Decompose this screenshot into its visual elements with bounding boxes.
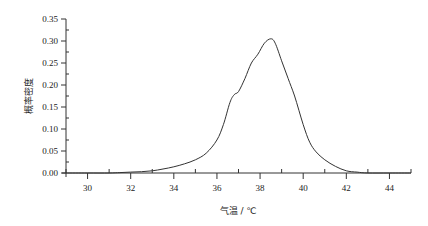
y-tick-label: 0.35	[42, 14, 58, 24]
x-tick-label: 34	[169, 183, 179, 193]
density-curve	[66, 39, 411, 173]
y-tick-label: 0.10	[42, 124, 58, 134]
x-tick-label: 40	[299, 183, 309, 193]
x-tick-label: 42	[342, 183, 351, 193]
x-tick-label: 44	[385, 183, 395, 193]
y-tick-label: 0.25	[42, 58, 58, 68]
y-axis: 0.000.050.100.150.200.250.300.35	[42, 14, 69, 178]
pdf-line-chart: 0.000.050.100.150.200.250.300.35 3032343…	[0, 0, 428, 226]
y-tick-label: 0.00	[42, 168, 58, 178]
y-tick-label: 0.30	[42, 36, 58, 46]
x-tick-label: 36	[212, 183, 222, 193]
y-tick-label: 0.15	[42, 102, 58, 112]
y-tick-label: 0.05	[42, 146, 58, 156]
x-axis-title: 气温 / ℃	[220, 205, 257, 216]
y-tick-label: 0.20	[42, 80, 58, 90]
x-tick-label: 38	[256, 183, 266, 193]
y-axis-title: 概率密度	[23, 78, 34, 114]
x-tick-label: 32	[126, 183, 135, 193]
x-tick-label: 30	[83, 183, 93, 193]
